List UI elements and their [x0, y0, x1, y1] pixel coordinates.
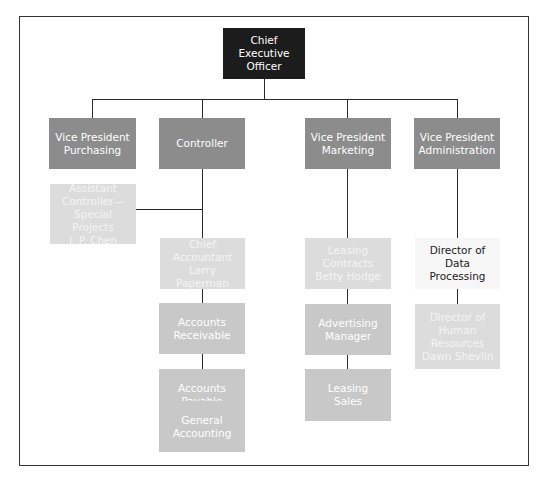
node-vp-purchasing: Vice President Purchasing: [49, 118, 136, 169]
connector-lc-am: [347, 289, 348, 304]
connector-vp-purchasing: [92, 99, 93, 118]
connector-controller-down: [202, 169, 203, 238]
node-director-data-processing: Director of Data Processing: [415, 238, 500, 289]
connector-ca-ar: [202, 289, 203, 303]
node-accounts-receivable: Accounts Receivable: [159, 303, 245, 354]
node-advertising-manager: Advertising Manager: [305, 304, 391, 355]
node-director-hr: Director of Human Resources Dawn Shevlin: [415, 304, 500, 369]
connector-vp-admin: [457, 99, 458, 118]
connector-am-ls: [347, 355, 348, 369]
node-general-accounting: General Accounting: [159, 401, 245, 452]
node-leasing-sales: Leasing Sales: [305, 369, 391, 421]
connector-admin-down: [457, 169, 458, 238]
node-chief-accountant: Chief Accountant Larry Paperman: [160, 238, 245, 289]
connector-controller: [202, 99, 203, 118]
connector-vp-marketing: [347, 99, 348, 118]
connector-top-horizontal: [92, 99, 458, 100]
connector-asst-controller: [136, 209, 202, 210]
node-ceo: Chief Executive Officer: [223, 28, 305, 79]
connector-ar-ap: [202, 354, 203, 369]
connector-dp-hr: [457, 289, 458, 304]
connector-marketing-down: [347, 169, 348, 238]
node-controller: Controller: [159, 118, 245, 169]
node-vp-admin: Vice President Administration: [414, 118, 500, 169]
node-leasing-contracts: Leasing Contracts Betty Hodge: [305, 238, 391, 289]
node-asst-controller: Assistant Controller— Special Projects J…: [50, 184, 136, 244]
node-vp-marketing: Vice President Marketing: [305, 118, 391, 169]
connector-ceo-down: [264, 79, 265, 99]
